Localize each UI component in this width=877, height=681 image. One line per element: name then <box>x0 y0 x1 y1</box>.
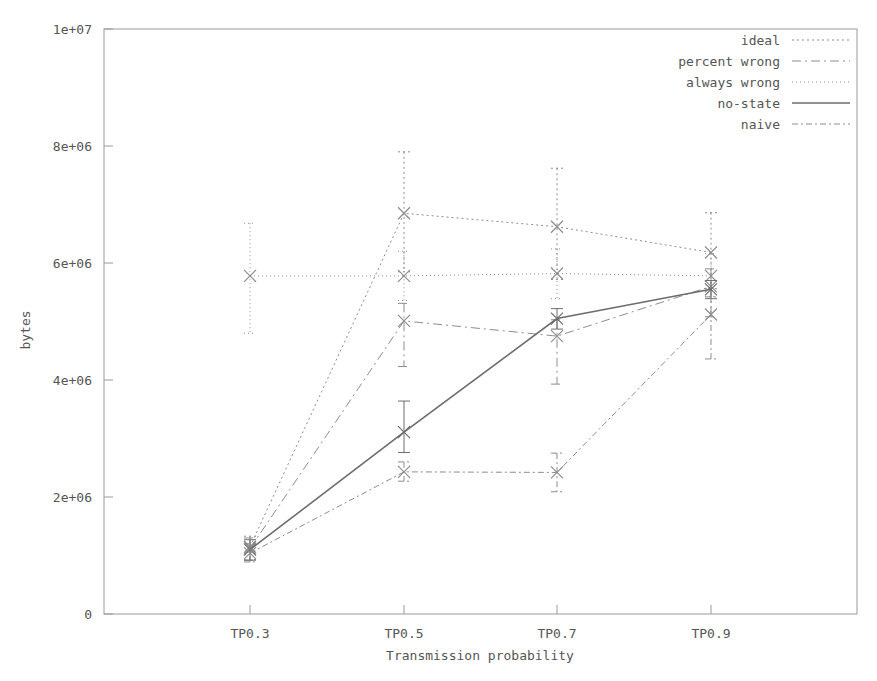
error-bar <box>551 168 563 279</box>
series-line <box>250 289 711 549</box>
error-bar <box>398 152 410 272</box>
legend-label-percent-wrong: percent wrong <box>678 54 780 69</box>
y-axis-title: bytes <box>18 310 33 349</box>
legend-label-no-state: no-state <box>717 96 780 111</box>
legend-label-always-wrong: always wrong <box>686 75 780 90</box>
y-tick-label: 4e+06 <box>53 373 92 388</box>
x-tick-label: TP0.7 <box>537 626 576 641</box>
series-always-wrong <box>244 223 717 333</box>
legend-label-naive: naive <box>741 117 780 132</box>
y-tick-label: 6e+06 <box>53 256 92 271</box>
y-tick-label: 2e+06 <box>53 490 92 505</box>
error-bar <box>398 401 410 452</box>
y-tick-label: 1e+07 <box>53 22 92 37</box>
error-bar <box>398 303 410 366</box>
error-bar <box>244 223 256 333</box>
series-line <box>250 274 711 276</box>
x-tick-label: TP0.3 <box>230 626 269 641</box>
y-tick-label: 8e+06 <box>53 139 92 154</box>
chart-render-layer: 02e+064e+066e+068e+061e+07TP0.3TP0.5TP0.… <box>53 22 857 642</box>
x-tick-label: TP0.5 <box>384 626 423 641</box>
series-no-state <box>244 281 717 561</box>
legend-label-ideal: ideal <box>741 33 780 48</box>
y-tick-label: 0 <box>84 607 92 622</box>
series-line <box>250 286 711 548</box>
error-bar <box>705 297 717 359</box>
series-line <box>250 314 711 553</box>
x-axis-title: Transmission probability <box>386 648 574 663</box>
series-percent-wrong <box>244 269 717 560</box>
line-chart: 02e+064e+066e+068e+061e+07TP0.3TP0.5TP0.… <box>0 0 877 681</box>
x-tick-label: TP0.9 <box>691 626 730 641</box>
series-ideal <box>244 152 717 560</box>
series-naive <box>244 297 717 562</box>
chart-container: 02e+064e+066e+068e+061e+07TP0.3TP0.5TP0.… <box>0 0 877 681</box>
